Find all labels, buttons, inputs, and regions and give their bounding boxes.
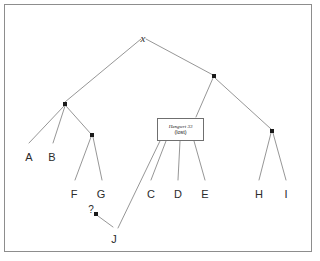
stemma-edge <box>215 78 271 129</box>
lost-manuscript-status: (lost) <box>174 130 186 136</box>
uncertain-node-dot <box>94 212 98 216</box>
stemma-edge <box>75 137 91 180</box>
stemma-edge <box>66 106 91 134</box>
leaf-node-label-i: I <box>284 189 287 200</box>
stemma-edge <box>151 141 166 180</box>
question-mark-label: ? <box>88 205 94 215</box>
lost-manuscript-name: Hengwrt 33 <box>169 124 193 129</box>
lost-manuscript-box: Hengwrt 33(lost) <box>157 118 204 141</box>
stemma-edge <box>118 141 160 228</box>
leaf-node-label-j: J <box>111 234 117 245</box>
root-node-label: x <box>141 33 146 44</box>
stemma-edge <box>273 133 286 180</box>
stemma-edge <box>98 216 113 227</box>
stemma-edge <box>65 39 141 102</box>
internal-node-dot <box>270 129 274 133</box>
leaf-node-label-d: D <box>174 189 182 200</box>
leaf-node-label-a: A <box>25 152 32 163</box>
stemma-figure: xHengwrt 33(lost)ABFGCDEHIJ? <box>0 0 320 261</box>
stemma-edge <box>146 39 213 75</box>
internal-node-dot <box>212 74 216 78</box>
stemma-edge <box>194 141 205 180</box>
leaf-node-label-e: E <box>201 189 208 200</box>
stemma-edge <box>259 133 271 180</box>
stemma-edge <box>178 141 180 180</box>
leaf-node-label-f: F <box>71 189 78 200</box>
leaf-node-label-c: C <box>147 189 155 200</box>
leaf-node-label-h: H <box>255 189 263 200</box>
internal-node-dot <box>63 102 67 106</box>
stemma-edge <box>93 137 102 180</box>
internal-node-dot <box>90 133 94 137</box>
stemma-edge <box>196 78 213 117</box>
leaf-node-label-g: G <box>97 189 106 200</box>
leaf-node-label-b: B <box>48 152 55 163</box>
